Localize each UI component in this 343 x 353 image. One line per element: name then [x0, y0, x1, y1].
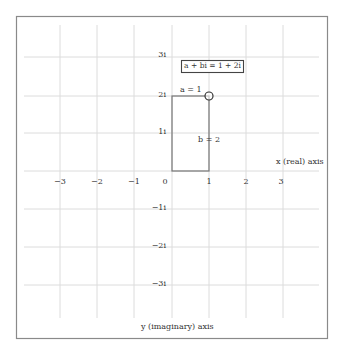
complex-plane-figure: a + bi = 1 + 2i a = 1 b = 2 x (real) axi…: [0, 0, 343, 353]
x-tick-label: −3: [51, 177, 69, 187]
y-tick-label: 2i: [140, 90, 166, 100]
point-marker-icon: [205, 92, 213, 100]
x-tick-label: 3: [272, 177, 290, 187]
real-part-label: a = 1: [180, 85, 202, 95]
x-axis-title: x (real) axis: [276, 157, 324, 167]
y-tick-label: −2i: [140, 241, 166, 251]
x-tick-label: 2: [237, 177, 255, 187]
y-tick-label: −1i: [140, 203, 166, 213]
x-tick-label: 1: [200, 177, 218, 187]
imaginary-part-label: b = 2: [198, 135, 220, 145]
equation-label: a + bi = 1 + 2i: [181, 61, 244, 71]
y-tick-label: 1i: [140, 127, 166, 137]
y-tick-label: −3i: [140, 279, 166, 289]
y-tick-label: 3i: [140, 50, 166, 60]
y-axis-title: y (imaginary) axis: [141, 322, 214, 332]
x-tick-label: −1: [125, 177, 143, 187]
x-tick-label: 0: [156, 177, 174, 187]
x-tick-label: −2: [88, 177, 106, 187]
